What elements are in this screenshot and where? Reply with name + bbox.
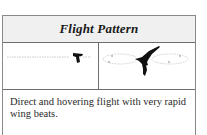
bird-direct-flight-icon [3,43,99,89]
flight-pattern-header: Flight Pattern [3,16,195,43]
hovering-flight-cell [99,43,195,89]
header-title: Flight Pattern [59,21,138,37]
direct-flight-cell [3,43,99,89]
hummingbird-hovering-icon [99,43,196,89]
flight-images-row [3,43,195,90]
flight-pattern-card: Flight Pattern [2,15,196,122]
flight-pattern-description: Direct and hovering flight with very rap… [3,90,195,120]
